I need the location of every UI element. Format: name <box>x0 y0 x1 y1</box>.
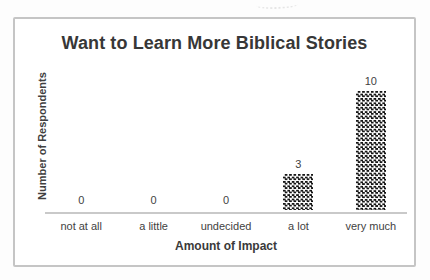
plot-area: 000310 <box>45 70 407 210</box>
bar-value-label-a-little: 0 <box>151 194 157 206</box>
category-label-a-lot: a lot <box>262 220 334 232</box>
category-label-a-little: a little <box>117 220 189 232</box>
bar-value-label-a-lot: 3 <box>295 158 301 170</box>
x-axis-title: Amount of Impact <box>45 239 407 253</box>
bar-column-undecided: 0 <box>190 194 262 210</box>
bar-a-lot <box>283 174 313 210</box>
bar-column-not-at-all: 0 <box>45 194 117 210</box>
cropped-text-artifact <box>256 0 298 9</box>
bar-value-label-not-at-all: 0 <box>78 194 84 206</box>
x-axis-line <box>45 212 407 214</box>
bar-column-very-much: 10 <box>335 75 407 210</box>
x-axis-category-row: not at alla littleundecideda lotvery muc… <box>45 220 407 232</box>
bar-value-label-undecided: 0 <box>223 194 229 206</box>
bar-column-a-lot: 3 <box>262 158 334 210</box>
chart-title: Want to Learn More Biblical Stories <box>15 33 414 54</box>
bar-column-a-little: 0 <box>117 194 189 210</box>
category-label-very-much: very much <box>335 220 407 232</box>
bar-value-label-very-much: 10 <box>365 75 377 87</box>
category-label-undecided: undecided <box>190 220 262 232</box>
category-label-not-at-all: not at all <box>45 220 117 232</box>
bar-very-much <box>356 91 386 210</box>
chart-frame: Want to Learn More Biblical Stories Numb… <box>13 17 416 267</box>
